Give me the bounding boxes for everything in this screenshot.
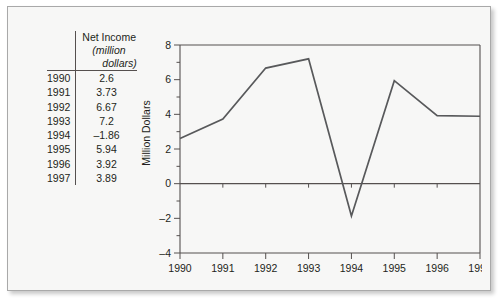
table-row: 1993 7.2 (47, 114, 137, 128)
x-tick-label: 1997 (468, 262, 482, 274)
x-tick-label: 1990 (168, 262, 192, 274)
table-row: 1992 6.67 (47, 100, 137, 114)
table-header-row: Net Income (million dollars) (47, 31, 137, 71)
table-head: Net Income (million dollars) (47, 31, 137, 71)
data-series-net-income (180, 59, 480, 216)
cell-net-income: 6.67 (76, 100, 137, 114)
cell-year: 1990 (47, 71, 76, 86)
cell-net-income: 7.2 (76, 114, 137, 128)
x-tick-label: 1991 (211, 262, 235, 274)
cell-net-income: 3.89 (76, 171, 137, 185)
header-line-1: Net Income (82, 31, 136, 44)
cell-year: 1997 (47, 171, 76, 185)
y-tick-label: –4 (159, 247, 171, 259)
y-tick-label: –2 (159, 212, 171, 224)
x-tick-label: 1995 (383, 262, 407, 274)
cell-year: 1992 (47, 100, 76, 114)
table-row: 1997 3.89 (47, 171, 137, 185)
table-row: 1995 5.94 (47, 142, 137, 156)
x-tick-label: 1992 (254, 262, 278, 274)
cell-net-income: 3.92 (76, 157, 137, 171)
cell-net-income: 2.6 (76, 71, 137, 86)
cell-year: 1993 (47, 114, 76, 128)
x-tick-label: 1993 (297, 262, 321, 274)
y-tick-label: 0 (165, 177, 171, 189)
chart-svg: 86420–2–41990199119921993199419951996199… (132, 31, 482, 286)
cell-year: 1991 (47, 85, 76, 99)
y-tick-label: 6 (165, 73, 171, 85)
x-tick-label: 1996 (425, 262, 449, 274)
y-tick-label: 8 (165, 39, 171, 51)
table-body: 1990 2.6 1991 3.73 1992 6.67 1993 7.2 (47, 71, 137, 186)
x-tick-label: 1994 (340, 262, 364, 274)
cell-year: 1994 (47, 128, 76, 142)
header-line-2: (million (82, 44, 136, 57)
header-line-3: dollars) (82, 57, 136, 70)
table-header-year-blank (47, 31, 76, 71)
table: Net Income (million dollars) 1990 2.6 19… (47, 31, 137, 185)
cell-net-income: 5.94 (76, 142, 137, 156)
table-row: 1996 3.92 (47, 157, 137, 171)
table-row: 1990 2.6 (47, 71, 137, 86)
cell-year: 1996 (47, 157, 76, 171)
table-header-net-income: Net Income (million dollars) (76, 31, 137, 71)
chart-drawing-group: 86420–2–41990199119921993199419951996199… (159, 39, 482, 274)
y-tick-label: 2 (165, 143, 171, 155)
figure-plate: Net Income (million dollars) 1990 2.6 19… (7, 6, 491, 291)
y-tick-label: 4 (165, 108, 171, 120)
cell-net-income: 3.73 (76, 85, 137, 99)
figure-container: Net Income (million dollars) 1990 2.6 19… (0, 0, 504, 305)
cell-year: 1995 (47, 142, 76, 156)
table-row: 1991 3.73 (47, 85, 137, 99)
cell-net-income: –1.86 (76, 128, 137, 142)
line-chart: Million Dollars 86420–2–4199019911992199… (132, 31, 482, 286)
table-row: 1994 –1.86 (47, 128, 137, 142)
